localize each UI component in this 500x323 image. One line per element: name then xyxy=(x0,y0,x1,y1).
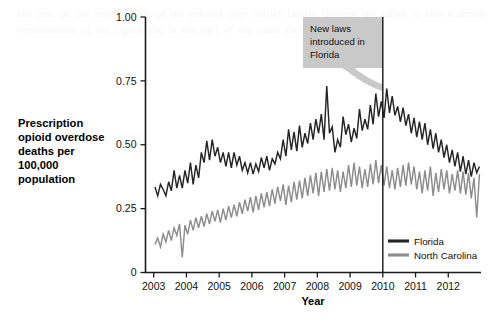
x-tick-label: 2004 xyxy=(175,280,199,292)
x-axis-title: Year xyxy=(301,295,325,307)
y-tick-label: 0 xyxy=(131,266,137,278)
x-tick-label: 2003 xyxy=(142,280,166,292)
x-tick-label: 2006 xyxy=(240,280,264,292)
y-axis-title-line-1: Prescription xyxy=(18,117,83,129)
y-axis-title-line-2: opioid overdose xyxy=(18,131,104,143)
y-tick-label: 0.25 xyxy=(116,202,137,214)
chart-figure: Prescription opioid overdose deaths per … xyxy=(0,0,500,323)
x-tick-label: 2011 xyxy=(404,280,427,292)
legend-label-florida: Florida xyxy=(414,236,444,247)
x-tick-label: 2009 xyxy=(338,280,362,292)
callout-text-line-1: New laws xyxy=(310,23,351,34)
y-axis-ticks: 00.250.500.751.00 xyxy=(116,11,145,279)
x-tick-label: 2008 xyxy=(306,280,330,292)
y-tick-label: 0.75 xyxy=(116,75,137,87)
y-tick-label: 0.50 xyxy=(116,138,137,150)
legend-label-north-carolina: North Carolina xyxy=(414,250,478,261)
y-axis-title: Prescription opioid overdose deaths per … xyxy=(18,117,104,185)
callout-text-line-3: Florida xyxy=(310,49,340,60)
callout-text-line-2: introduced in xyxy=(310,36,365,47)
x-tick-label: 2010 xyxy=(371,280,395,292)
x-tick-label: 2012 xyxy=(437,280,461,292)
legend: Florida North Carolina xyxy=(388,236,478,261)
annotation-callout-new-laws: New laws introduced in Florida xyxy=(303,17,382,91)
x-tick-label: 2005 xyxy=(207,280,231,292)
x-axis-ticks: 2003200420052006200720082009201020112012 xyxy=(142,273,460,292)
y-tick-label: 1.00 xyxy=(116,11,137,23)
y-axis-title-line-4: 100,000 xyxy=(18,159,58,171)
x-tick-label: 2007 xyxy=(273,280,297,292)
y-axis-title-line-5: population xyxy=(18,173,75,185)
y-axis-title-line-3: deaths per xyxy=(18,145,75,157)
